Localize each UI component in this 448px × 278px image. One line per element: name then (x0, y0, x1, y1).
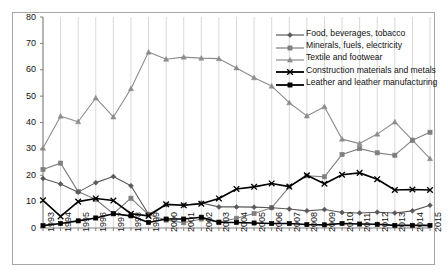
legend-label: Leather and leather manufacturing (305, 78, 437, 87)
chart-plot-frame: 01020304050607080 1993199419951996199719… (12, 12, 435, 265)
x-axis-tick-label: 1997 (117, 212, 126, 232)
y-axis-tick-label: 70 (18, 39, 36, 48)
x-axis-tick-label: 1994 (64, 212, 73, 232)
x-axis-tick-label: 2010 (346, 212, 355, 232)
legend-marker-icon (275, 40, 305, 52)
legend-label: Construction materials and metals (305, 66, 436, 75)
x-axis-tick-label: 2007 (293, 212, 302, 232)
x-axis-tick-label: 1995 (82, 212, 91, 232)
x-axis-tick-label: 1998 (134, 212, 143, 232)
legend-item: Construction materials and metals (275, 64, 448, 76)
x-axis-tick-label: 2013 (398, 212, 407, 232)
legend-marker-icon (275, 64, 305, 76)
chart-legend: Food, beverages, tobaccoMinerals, fuels,… (275, 27, 448, 89)
legend-item: Food, beverages, tobacco (275, 27, 448, 39)
x-axis-tick-label: 2011 (363, 213, 372, 232)
x-axis-tick-label: 1999 (152, 212, 161, 232)
y-axis-tick-label: 60 (18, 65, 36, 74)
x-axis-tick-label: 1996 (99, 212, 108, 232)
legend-marker-icon (275, 77, 305, 89)
y-axis-tick-label: 40 (18, 118, 36, 127)
legend-marker-icon (275, 52, 305, 64)
x-axis-tick-label: 2001 (187, 212, 196, 232)
legend-label: Food, beverages, tobacco (305, 29, 405, 38)
legend-label: Textile and footwear (305, 53, 382, 62)
x-axis-tick-label: 2009 (328, 212, 337, 232)
y-axis-tick-label: 10 (18, 197, 36, 206)
legend-label: Minerals, fuels, electricity (305, 41, 402, 50)
x-axis-tick-label: 2006 (275, 212, 284, 232)
y-axis-tick-label: 50 (18, 92, 36, 101)
x-axis-tick-label: 2004 (240, 212, 249, 232)
legend-item: Minerals, fuels, electricity (275, 39, 448, 51)
chart-container: 01020304050607080 1993199419951996199719… (0, 0, 448, 278)
x-axis-tick-label: 2012 (381, 212, 390, 232)
x-axis-tick-label: 2005 (258, 212, 267, 232)
x-axis-tick-label: 2015 (434, 212, 443, 232)
x-axis-tick-label: 2008 (310, 212, 319, 232)
y-axis-tick-label: 80 (18, 13, 36, 22)
x-axis-tick-label: 2003 (222, 212, 231, 232)
y-axis-tick-label: 0 (18, 224, 36, 233)
y-axis-tick-label: 30 (18, 144, 36, 153)
x-axis-tick-label: 2000 (170, 212, 179, 232)
x-axis-tick-label: 2014 (416, 212, 425, 232)
legend-item: Textile and footwear (275, 52, 448, 64)
legend-item: Leather and leather manufacturing (275, 77, 448, 89)
x-axis-tick-label: 2002 (205, 212, 214, 232)
y-axis-tick-label: 20 (18, 171, 36, 180)
legend-marker-icon (275, 27, 305, 39)
x-axis-tick-label: 1993 (47, 212, 56, 232)
